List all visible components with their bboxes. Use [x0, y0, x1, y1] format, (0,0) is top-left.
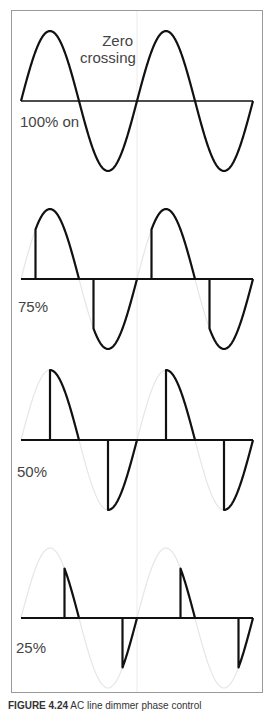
caption-prefix: FIGURE 4.24 — [8, 700, 68, 711]
annotation-line1: Zero — [80, 32, 133, 49]
figure-caption: FIGURE 4.24 AC line dimmer phase control — [8, 700, 201, 711]
zero-crossing-annotation: Zero crossing — [80, 32, 133, 66]
panel-label-75: 75% — [18, 299, 48, 315]
panel-label-50: 50% — [17, 464, 47, 480]
panel-label-25: 25% — [16, 640, 46, 656]
panel-label-100: 100% on — [20, 114, 79, 130]
annotation-line2: crossing — [80, 49, 133, 66]
caption-text: AC line dimmer phase control — [70, 700, 201, 711]
